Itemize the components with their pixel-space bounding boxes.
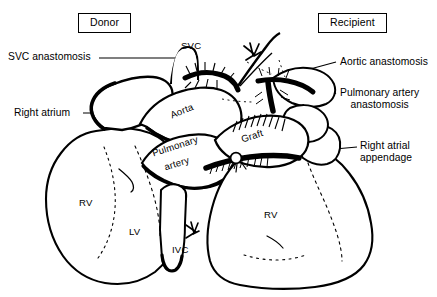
header-label-donor: Donor [78,13,131,33]
donor-vessel-sprig [186,222,199,238]
anatomy-label-svc: SVC [181,41,201,52]
callout-pa-line1: Pulmonary artery [340,87,419,99]
callout-pa-line2: anastomosis [340,99,419,111]
header-label-donor-text: Donor [90,16,119,28]
callout-right-atrial-appendage: Right atrial appendage [360,140,412,163]
callout-raa-line2: appendage [360,152,412,164]
anatomy-label-lv-donor: LV [129,227,140,238]
callout-pulmonary-artery-anastomosis: Pulmonary artery anastomosis [340,87,419,110]
anatomy-label-ivc: IVC [172,245,189,256]
callout-right-atrium: Right atrium [14,107,70,119]
recipient-ventricle-outline [208,149,373,289]
callout-svc-anastomosis: SVC anastomosis [8,51,91,63]
suture-knot-marker [231,153,242,164]
aortic-anastomosis-stem [268,82,273,111]
callout-raa-line1: Right atrial [360,140,412,152]
anatomy-label-rv-recipient: RV [264,210,278,221]
header-label-recipient: Recipient [318,13,387,33]
anatomy-label-rv-donor: RV [79,198,93,209]
header-label-recipient-text: Recipient [330,16,375,28]
callout-aortic-anastomosis: Aortic anastomosis [340,56,428,68]
figure-canvas: Donor Recipient SVC anastomosis Right at… [0,0,437,297]
